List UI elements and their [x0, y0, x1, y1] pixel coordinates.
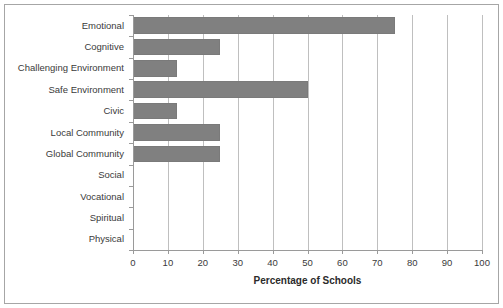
bar-emotional[interactable] — [133, 17, 395, 34]
x-tick-label-60: 60 — [337, 257, 348, 268]
bar-civic[interactable] — [133, 103, 177, 120]
y-label-challenging-environment: Challenging Environment — [18, 62, 124, 73]
x-tick-10 — [168, 250, 169, 254]
y-tick — [129, 186, 133, 187]
y-axis-line — [133, 15, 134, 250]
x-tick-30 — [238, 250, 239, 254]
y-tick — [129, 58, 133, 59]
plot-area — [133, 15, 482, 250]
x-axis-title: Percentage of Schools — [133, 275, 482, 286]
bar-series — [133, 15, 482, 250]
y-label-cognitive: Cognitive — [84, 41, 124, 52]
bar-local-community[interactable] — [133, 124, 220, 141]
x-tick-label-90: 90 — [442, 257, 453, 268]
y-tick — [129, 36, 133, 37]
bar-row — [133, 79, 482, 100]
x-tick-label-20: 20 — [198, 257, 209, 268]
gridline-100 — [482, 15, 483, 250]
x-tick-label-30: 30 — [232, 257, 243, 268]
x-tick-50 — [308, 250, 309, 254]
x-tick-60 — [342, 250, 343, 254]
x-tick-label-70: 70 — [372, 257, 383, 268]
y-tick — [129, 143, 133, 144]
y-axis-category-labels: EmotionalCognitiveChallenging Environmen… — [0, 15, 129, 250]
y-tick — [129, 229, 133, 230]
x-tick-label-0: 0 — [130, 257, 135, 268]
y-label-local-community: Local Community — [51, 127, 124, 138]
y-tick — [129, 122, 133, 123]
bar-challenging-environment[interactable] — [133, 60, 177, 77]
bar-row — [133, 58, 482, 79]
x-tick-0 — [133, 250, 134, 254]
x-tick-label-80: 80 — [407, 257, 418, 268]
y-label-social: Social — [98, 169, 124, 180]
bar-safe-environment[interactable] — [133, 81, 308, 98]
y-tick — [129, 100, 133, 101]
bar-global-community[interactable] — [133, 146, 220, 163]
x-tick-70 — [377, 250, 378, 254]
y-label-emotional: Emotional — [82, 20, 124, 31]
bar-row — [133, 36, 482, 57]
bar-row — [133, 122, 482, 143]
bar-row — [133, 143, 482, 164]
x-tick-label-100: 100 — [474, 257, 490, 268]
bar-row — [133, 165, 482, 186]
y-tick — [129, 79, 133, 80]
y-tick — [129, 250, 133, 251]
y-tick — [129, 15, 133, 16]
x-tick-label-40: 40 — [267, 257, 278, 268]
x-tick-40 — [273, 250, 274, 254]
y-label-safe-environment: Safe Environment — [48, 84, 124, 95]
y-label-spiritual: Spiritual — [90, 212, 124, 223]
y-tick — [129, 165, 133, 166]
x-tick-80 — [412, 250, 413, 254]
x-tick-label-10: 10 — [163, 257, 174, 268]
y-label-vocational: Vocational — [80, 191, 124, 202]
bar-row — [133, 186, 482, 207]
x-tick-20 — [203, 250, 204, 254]
y-label-global-community: Global Community — [46, 148, 124, 159]
chart-screenshot: EmotionalCognitiveChallenging Environmen… — [0, 0, 503, 308]
y-tick — [129, 207, 133, 208]
bar-row — [133, 15, 482, 36]
x-tick-label-50: 50 — [302, 257, 313, 268]
bar-cognitive[interactable] — [133, 39, 220, 56]
bar-row — [133, 100, 482, 121]
bar-row — [133, 229, 482, 250]
x-tick-90 — [447, 250, 448, 254]
y-label-physical: Physical — [89, 233, 124, 244]
x-tick-100 — [482, 250, 483, 254]
bar-row — [133, 207, 482, 228]
y-label-civic: Civic — [103, 105, 124, 116]
